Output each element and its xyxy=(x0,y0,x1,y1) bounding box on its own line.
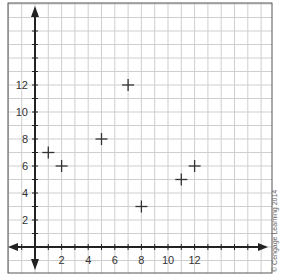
data-point-plus-marker xyxy=(189,160,201,172)
y-tick-label: 6 xyxy=(22,160,28,172)
x-tick-label: 10 xyxy=(162,254,174,266)
data-point-plus-marker xyxy=(175,174,187,186)
data-point-plus-marker xyxy=(122,79,134,91)
grid-lines xyxy=(8,3,272,273)
y-tick-label: 4 xyxy=(22,187,28,199)
x-axis-left-arrow-icon xyxy=(8,243,18,251)
data-points xyxy=(42,79,200,213)
axis-ticks xyxy=(22,31,248,261)
data-point-plus-marker xyxy=(96,133,108,145)
data-point-plus-marker xyxy=(135,201,147,213)
y-tick-label: 12 xyxy=(16,79,28,91)
y-tick-label: 8 xyxy=(22,133,28,145)
axes xyxy=(8,6,268,270)
y-tick-label: 2 xyxy=(22,214,28,226)
x-axis-right-arrow-icon xyxy=(258,243,268,251)
x-tick-label: 2 xyxy=(59,254,65,266)
y-tick-label: 10 xyxy=(16,106,28,118)
data-point-plus-marker xyxy=(42,147,54,159)
data-point-plus-marker xyxy=(56,160,68,172)
scatter-plot: 24681012 24681012 xyxy=(0,0,283,277)
x-tick-label: 4 xyxy=(85,254,91,266)
x-tick-label: 12 xyxy=(188,254,200,266)
y-axis-up-arrow-icon xyxy=(31,6,39,17)
copyright-credit: © Cengage Learning 2014 xyxy=(271,190,278,272)
x-tick-label: 6 xyxy=(112,254,118,266)
x-tick-label: 8 xyxy=(138,254,144,266)
plot-frame xyxy=(8,3,272,273)
